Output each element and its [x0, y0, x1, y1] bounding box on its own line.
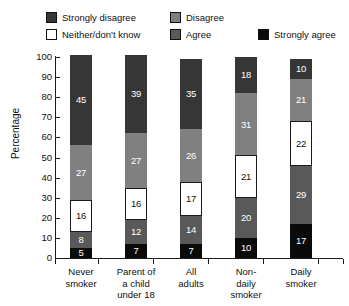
stacked-bar-chart: Percentage 0102030405060708090100 581627…	[0, 0, 349, 306]
bar-segment-value: 26	[186, 151, 196, 161]
bar-segment-value: 27	[131, 156, 141, 166]
bar-segment[interactable]: 7	[125, 244, 147, 258]
bar-segment[interactable]: 10	[235, 238, 257, 258]
bar-segment[interactable]: 20	[235, 198, 257, 238]
bar-segment-value: 22	[296, 139, 306, 149]
figure-caption	[8, 299, 346, 306]
y-tick-label: 70	[22, 112, 52, 122]
y-tick-mark	[56, 178, 60, 179]
y-tick-mark	[56, 57, 60, 58]
y-tick-label: 30	[22, 193, 52, 203]
y-tick-mark	[56, 137, 60, 138]
bar-segment-value: 39	[131, 89, 141, 99]
bar-segment-value: 17	[186, 194, 196, 204]
bar-segment[interactable]: 12	[125, 220, 147, 244]
bar-segment[interactable]: 5	[70, 248, 92, 258]
bar-segment[interactable]: 14	[180, 216, 202, 244]
bar-segment[interactable]: 45	[70, 55, 92, 145]
bar-segment[interactable]: 16	[70, 200, 92, 232]
y-tick-label: 80	[22, 92, 52, 102]
bar-segment[interactable]: 27	[70, 145, 92, 199]
bar-segment[interactable]: 18	[235, 57, 257, 93]
stacked-bar[interactable]: 58162745	[70, 57, 92, 258]
bar-segment-value: 16	[76, 211, 86, 221]
bar-segment[interactable]: 29	[290, 166, 312, 224]
y-tick-label-text: 100	[26, 52, 52, 62]
bar-segment-value: 35	[186, 89, 196, 99]
y-axis-label: Percentage	[10, 94, 21, 174]
y-tick-mark	[56, 117, 60, 118]
y-tick-label-text: 0	[26, 253, 52, 263]
x-tick-mark	[318, 259, 319, 264]
bar-segment[interactable]: 17	[290, 224, 312, 258]
x-tick-mark	[153, 259, 154, 264]
bar-segment-value: 8	[78, 235, 83, 245]
bar-segment-value: 12	[131, 227, 141, 237]
bar-segment[interactable]: 39	[125, 55, 147, 133]
bar-segment[interactable]: 7	[180, 244, 202, 258]
y-tick-mark	[56, 238, 60, 239]
y-tick-label-text: 60	[26, 132, 52, 142]
bar-segment[interactable]: 10	[290, 59, 312, 79]
stacked-bar[interactable]: 712162739	[125, 57, 147, 258]
y-tick-label-text: 40	[26, 173, 52, 183]
y-tick-mark	[56, 218, 60, 219]
y-tick-label-text: 50	[26, 153, 52, 163]
bar-segment-value: 16	[131, 199, 141, 209]
y-tick-label: 100	[22, 52, 52, 62]
bar-segment[interactable]: 16	[125, 188, 147, 220]
x-tick-mark	[208, 259, 209, 264]
bar-segment-value: 21	[241, 172, 251, 182]
category-label-line: smoker	[269, 278, 333, 290]
bar-segment-value: 27	[76, 168, 86, 178]
bar-segment-value: 7	[188, 246, 193, 256]
x-tick-mark	[98, 259, 99, 264]
bar-segment-value: 7	[133, 246, 138, 256]
y-tick-label: 0	[22, 253, 52, 263]
y-tick-mark	[56, 77, 60, 78]
y-tick-label-text: 10	[26, 233, 52, 243]
x-tick-mark	[263, 259, 264, 264]
y-tick-label: 20	[22, 213, 52, 223]
bar-segment-value: 14	[186, 225, 196, 235]
y-tick-mark	[56, 158, 60, 159]
bar-segment-value: 10	[241, 243, 251, 253]
y-tick-label: 50	[22, 153, 52, 163]
bar-segment[interactable]: 22	[290, 121, 312, 165]
bar-segment[interactable]: 21	[235, 155, 257, 197]
stacked-bar[interactable]: 1729222110	[290, 57, 312, 258]
y-tick-label-text: 70	[26, 112, 52, 122]
bar-segment-value: 45	[76, 95, 86, 105]
bar-segment-value: 5	[78, 248, 83, 258]
y-tick-label: 40	[22, 173, 52, 183]
stacked-bar[interactable]: 714172635	[180, 57, 202, 258]
bar-segment[interactable]: 8	[70, 232, 92, 248]
stacked-bar[interactable]: 1020213118	[235, 57, 257, 258]
y-tick-label: 60	[22, 132, 52, 142]
bar-segment-value: 18	[241, 70, 251, 80]
bar-segment-value: 31	[241, 120, 251, 130]
bar-segment[interactable]: 17	[180, 182, 202, 216]
bar-segment[interactable]: 21	[290, 79, 312, 121]
bar-segment[interactable]: 35	[180, 59, 202, 129]
y-tick-mark	[56, 97, 60, 98]
y-tick-label: 90	[22, 72, 52, 82]
x-tick-mark	[343, 259, 344, 264]
y-tick-label-text: 20	[26, 213, 52, 223]
y-tick-label: 10	[22, 233, 52, 243]
y-tick-label-text: 30	[26, 193, 52, 203]
y-tick-label-text: 80	[26, 92, 52, 102]
bar-segment[interactable]: 27	[125, 133, 147, 187]
x-tick-mark	[55, 259, 56, 264]
category-label-line: Daily	[269, 266, 333, 278]
bar-segment[interactable]: 26	[180, 129, 202, 181]
y-tick-label-text: 90	[26, 72, 52, 82]
bar-segment-value: 29	[296, 190, 306, 200]
bar-segment-value: 20	[241, 213, 251, 223]
bar-segment[interactable]: 31	[235, 93, 257, 155]
bar-segment-value: 21	[296, 95, 306, 105]
bar-segment-value: 17	[296, 236, 306, 246]
y-tick-mark	[56, 258, 60, 259]
category-label: Dailysmoker	[269, 266, 333, 289]
bar-segment-value: 10	[296, 64, 306, 74]
